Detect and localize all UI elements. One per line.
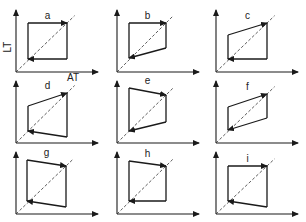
equality-line xyxy=(16,16,75,72)
panel-f: f xyxy=(216,81,298,143)
panel-c: c xyxy=(216,10,298,72)
equality-line xyxy=(216,16,275,72)
loop-top-arrow-icon xyxy=(129,161,166,166)
panel-d: d xyxy=(16,80,98,143)
loop-top-arrow-icon xyxy=(27,160,66,166)
equality-line xyxy=(117,16,173,72)
loop-bottom-arrow-icon xyxy=(228,118,267,130)
loop-bottom-arrow-icon xyxy=(129,122,166,131)
loop-top-arrow-icon xyxy=(228,94,267,107)
panel-h: h xyxy=(117,148,199,214)
equality-line xyxy=(117,88,173,143)
panel-label: c xyxy=(245,10,250,21)
equality-line xyxy=(216,87,275,143)
panel-label: i xyxy=(246,153,248,164)
panel-label: f xyxy=(246,81,249,92)
loop-diagram-grid: abcdefghi LT AT xyxy=(0,0,306,222)
equality-line xyxy=(16,86,75,144)
panel-a: a xyxy=(16,10,98,72)
loop-bottom-arrow-icon xyxy=(28,131,67,137)
loop-bottom-arrow-icon xyxy=(129,48,166,58)
loop-bottom-arrow-icon xyxy=(27,201,66,207)
loop-top-arrow-icon xyxy=(28,93,67,106)
panel-label: d xyxy=(45,80,51,91)
panel-b: b xyxy=(117,10,199,72)
panel-e: e xyxy=(117,75,199,143)
equality-line xyxy=(216,159,275,214)
equality-line xyxy=(16,159,74,214)
panel-label: h xyxy=(145,148,151,159)
x-axis-label: AT xyxy=(67,72,79,83)
loop-bottom-arrow-icon xyxy=(228,201,267,207)
panel-label: g xyxy=(44,147,50,158)
panel-label: b xyxy=(145,10,151,21)
panel-label: e xyxy=(145,75,151,86)
panel-label: a xyxy=(45,10,51,21)
y-axis-label: LT xyxy=(2,42,13,53)
equality-line xyxy=(117,159,173,214)
panel-i: i xyxy=(216,152,298,214)
panel-g: g xyxy=(16,147,98,214)
loop-top-arrow-icon xyxy=(129,88,166,95)
